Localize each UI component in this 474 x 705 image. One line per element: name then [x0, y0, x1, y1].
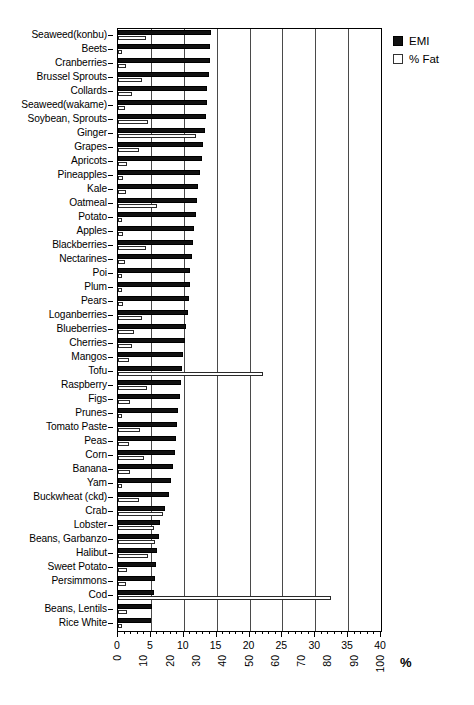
- axis-tick: [373, 631, 374, 634]
- bar-row: [118, 281, 381, 294]
- x-tick-label-fat: 30: [190, 655, 202, 667]
- bar-row: [118, 337, 381, 350]
- bar-row: [118, 561, 381, 574]
- bar-emi: [118, 296, 189, 301]
- bar-row: [118, 617, 381, 630]
- x-tick-label-emi: 0: [114, 639, 120, 651]
- axis-tick: [275, 631, 276, 634]
- axis-tick: [354, 631, 355, 634]
- bar-row: [118, 505, 381, 518]
- bar-emi: [118, 548, 157, 553]
- bar-emi: [118, 240, 193, 245]
- category-tick: [108, 581, 113, 582]
- bar-fat: [118, 610, 127, 615]
- bar-row: [118, 603, 381, 616]
- category-label: Blueberries: [57, 322, 107, 335]
- bar-row: [118, 267, 381, 280]
- axis-tick: [367, 631, 368, 634]
- bar-fat: [118, 302, 123, 307]
- bar-emi: [118, 142, 203, 147]
- bar-emi: [118, 226, 194, 231]
- bar-emi: [118, 156, 202, 161]
- bar-fat: [118, 526, 154, 531]
- category-label: Prunes: [75, 406, 107, 419]
- axis-tick: [196, 631, 197, 634]
- bar-row: [118, 43, 381, 56]
- category-tick: [108, 357, 113, 358]
- bar-fat: [118, 568, 127, 573]
- category-label: Nectarines: [59, 252, 107, 265]
- bar-emi: [118, 184, 198, 189]
- legend-item-emi: EMI: [393, 33, 471, 48]
- bar-emi: [118, 128, 205, 133]
- axis-tick: [360, 631, 361, 634]
- bar-row: [118, 393, 381, 406]
- category-tick: [108, 427, 113, 428]
- axis-tick: [321, 631, 322, 634]
- axis-tick: [229, 631, 230, 634]
- bar-emi: [118, 324, 186, 329]
- bar-row: [118, 71, 381, 84]
- bar-fat: [118, 218, 122, 223]
- category-label: Persimmons: [51, 574, 107, 587]
- x-tick-label-fat: 80: [321, 655, 333, 667]
- bar-fat: [118, 372, 263, 377]
- bar-emi: [118, 282, 190, 287]
- category-label: Corn: [85, 448, 107, 461]
- chart-container: Seaweed(konbu)BeetsCranberriesBrussel Sp…: [0, 0, 474, 705]
- category-tick: [108, 203, 113, 204]
- category-tick: [108, 497, 113, 498]
- bar-emi: [118, 212, 196, 217]
- bar-row: [118, 519, 381, 532]
- category-label: Apples: [76, 224, 107, 237]
- axis-tick: [150, 631, 151, 637]
- bar-row: [118, 57, 381, 70]
- bar-emi: [118, 310, 188, 315]
- axis-tick: [183, 631, 184, 637]
- bar-fat: [118, 190, 126, 195]
- category-label: Cod: [89, 588, 107, 601]
- legend: EMI % Fat: [393, 33, 471, 69]
- bar-fat: [118, 540, 155, 545]
- axis-tick: [130, 631, 131, 634]
- x-tick-label-fat: 90: [348, 655, 360, 667]
- category-label: Collards: [70, 84, 107, 97]
- category-label: Halibut: [76, 546, 107, 559]
- category-tick: [108, 105, 113, 106]
- bar-fat: [118, 498, 139, 503]
- axis-tick: [137, 631, 138, 634]
- axis-tick: [268, 631, 269, 634]
- category-tick: [108, 245, 113, 246]
- bar-fat: [118, 456, 144, 461]
- bar-row: [118, 113, 381, 126]
- category-tick: [108, 539, 113, 540]
- category-label: Brussel Sprouts: [37, 70, 107, 83]
- bar-fat: [118, 596, 331, 601]
- axis-tick: [281, 631, 282, 637]
- bar-row: [118, 99, 381, 112]
- bar-fat: [118, 344, 132, 349]
- axis-tick: [380, 631, 381, 637]
- bar-fat: [118, 162, 127, 167]
- axis-tick: [334, 631, 335, 634]
- category-tick: [108, 623, 113, 624]
- bar-fat: [118, 470, 130, 475]
- axis-tick: [295, 631, 296, 634]
- legend-swatch-emi: [393, 36, 403, 46]
- category-label: Buckwheat (ckd): [33, 490, 107, 503]
- axis-tick: [143, 631, 144, 634]
- category-tick: [108, 343, 113, 344]
- axis-tick: [347, 631, 348, 637]
- x-tick-label-emi: 35: [341, 639, 353, 651]
- x-tick-label-emi: 40: [374, 639, 386, 651]
- bar-emi: [118, 506, 165, 511]
- category-label: Beets: [81, 42, 107, 55]
- bar-fat: [118, 330, 134, 335]
- bar-emi: [118, 30, 211, 35]
- axis-tick: [176, 631, 177, 634]
- category-label: Grapes: [74, 140, 107, 153]
- bar-fat: [118, 36, 146, 41]
- bar-fat: [118, 50, 122, 55]
- bar-emi: [118, 268, 190, 273]
- bar-row: [118, 127, 381, 140]
